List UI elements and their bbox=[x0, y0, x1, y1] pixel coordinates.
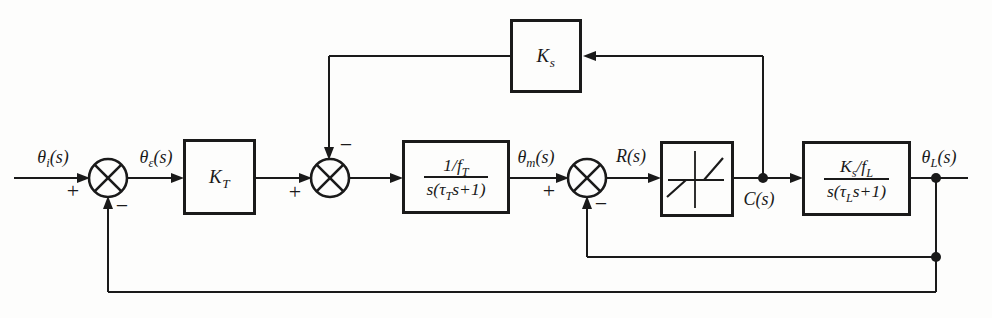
load-transfer-function: Ks/fL s(τLs+1) bbox=[824, 156, 889, 200]
motor-tf-numerator: 1/fT bbox=[439, 155, 472, 176]
signal-label-r-s: R(s) bbox=[616, 146, 646, 167]
signal-label-theta-m: θm(s) bbox=[518, 147, 555, 168]
signal-label-theta-l: θL(s) bbox=[922, 147, 957, 168]
motor-tf-denominator: s(τTs+1) bbox=[424, 176, 489, 199]
j1-plus-sign: + bbox=[67, 178, 79, 204]
block-diagram: KT 1/fT s(τTs+1) Ks/fL s(τLs+1) Ks θi(s)… bbox=[0, 0, 992, 318]
j3-plus-sign: + bbox=[543, 178, 555, 204]
signal-label-c-s: C(s) bbox=[744, 189, 775, 210]
dead-zone-icon bbox=[663, 144, 731, 214]
summing-junction-2 bbox=[311, 159, 349, 197]
signal-label-theta-i: θi(s) bbox=[37, 147, 68, 168]
feedback-gain-label: Ks bbox=[537, 45, 556, 67]
arrow-into-ks bbox=[583, 51, 596, 61]
j1-minus-sign: − bbox=[116, 193, 128, 219]
j3-minus-sign: − bbox=[595, 191, 607, 217]
load-tf-numerator: Ks/fL bbox=[836, 156, 877, 177]
signal-label-theta-epsilon: θε(s) bbox=[140, 147, 173, 168]
amplifier-block: KT bbox=[183, 139, 256, 215]
load-tf-denominator: s(τLs+1) bbox=[824, 178, 889, 201]
j2-plus-sign: + bbox=[289, 179, 301, 205]
branch-dot-output bbox=[931, 173, 941, 183]
dead-zone-nonlinearity-block bbox=[660, 141, 734, 217]
motor-transfer-function-block: 1/fT s(τTs+1) bbox=[402, 140, 510, 214]
load-transfer-function-block: Ks/fL s(τLs+1) bbox=[802, 141, 911, 216]
summing-junction-1 bbox=[89, 159, 127, 197]
motor-transfer-function: 1/fT s(τTs+1) bbox=[424, 155, 489, 199]
j2-minus-sign: − bbox=[340, 132, 352, 158]
branch-dot-cs bbox=[758, 173, 768, 183]
feedback-gain-block: Ks bbox=[510, 19, 582, 93]
amplifier-block-label: KT bbox=[209, 166, 230, 188]
branch-dot-inner-feedback bbox=[931, 252, 941, 262]
